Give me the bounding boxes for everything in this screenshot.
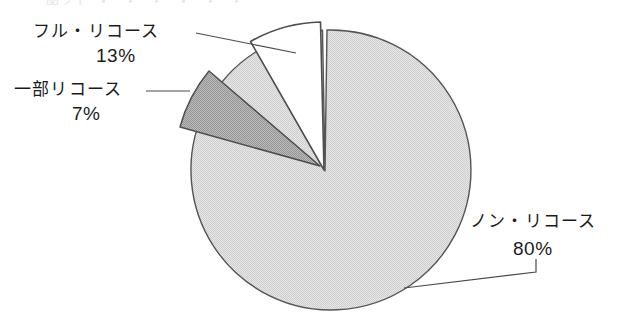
pie-chart-figure: 図21 ・ ・ ・ ・ ・ ・ フル・リコース — [0, 0, 635, 329]
pie-slice-non-recourse — [191, 30, 471, 310]
slice-label-partial-recourse: 一部リコース — [14, 81, 122, 98]
slice-percent-partial-recourse: 7% — [72, 104, 100, 123]
slice-percent-non-recourse: 80% — [513, 239, 553, 258]
slice-label-non-recourse: ノン・リコース — [470, 213, 596, 230]
slice-percent-full-recourse: 13% — [96, 46, 136, 65]
slice-label-full-recourse: フル・リコース — [33, 23, 159, 40]
